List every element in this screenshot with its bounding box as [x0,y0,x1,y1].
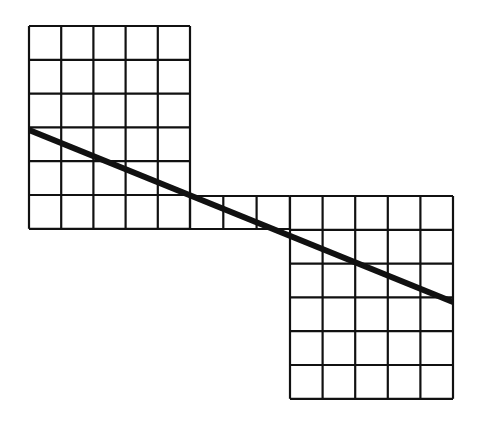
grid-diagram [0,0,482,424]
right-grid [290,196,453,399]
left-grid [29,26,190,229]
grids [29,26,453,399]
